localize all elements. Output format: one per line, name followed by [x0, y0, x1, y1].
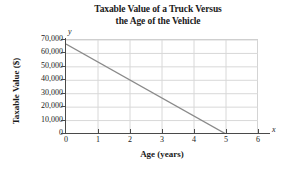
- y-axis-tick-label: 20,000: [21, 102, 63, 110]
- y-axis-tick-mark: [61, 52, 65, 53]
- x-axis-tick-label: 2: [120, 136, 140, 144]
- y-axis-tick-label: 70,000: [21, 35, 63, 43]
- x-axis-tick-mark: [226, 129, 227, 133]
- x-axis-tick-mark: [98, 129, 99, 133]
- chart-figure: Taxable Value of a Truck Versus the Age …: [0, 0, 290, 172]
- y-axis-letter: y: [68, 27, 72, 36]
- x-axis-tick-label: 4: [184, 136, 204, 144]
- chart-title: Taxable Value of a Truck Versus the Age …: [58, 4, 258, 27]
- x-axis-line: [65, 133, 270, 134]
- x-axis-tick-mark: [258, 129, 259, 133]
- chart-title-line-2: the Age of the Vehicle: [58, 16, 258, 28]
- y-axis-tick-mark: [61, 133, 65, 134]
- x-axis-tick-label: 6: [248, 136, 268, 144]
- plot-canvas: [66, 40, 258, 134]
- x-axis-letter: x: [272, 125, 276, 134]
- x-axis-tick-label: 3: [152, 136, 172, 144]
- x-axis-tick-label: 1: [88, 136, 108, 144]
- x-axis-tick-mark: [130, 129, 131, 133]
- y-axis-tick-mark: [61, 66, 65, 67]
- chart-title-line-1: Taxable Value of a Truck Versus: [58, 4, 258, 16]
- plot-area: [66, 39, 258, 133]
- y-axis-tick-mark: [61, 39, 65, 40]
- x-axis-tick-mark: [194, 129, 195, 133]
- y-axis-tick-mark: [61, 106, 65, 107]
- y-axis-tick-mark: [61, 120, 65, 121]
- x-axis-tick-label: 0: [56, 136, 76, 144]
- y-axis-tick-label: 50,000: [21, 62, 63, 70]
- y-axis-tick-label: 40,000: [21, 75, 63, 83]
- y-axis-tick-label: 10,000: [21, 116, 63, 124]
- vertical-gridlines: [98, 40, 258, 134]
- y-axis-tick-label: 30,000: [21, 89, 63, 97]
- x-axis-title: Age (years): [66, 149, 258, 159]
- y-axis-tick-mark: [61, 93, 65, 94]
- y-axis-title: Taxable Value ($): [11, 41, 21, 141]
- y-axis-line: [65, 38, 66, 134]
- y-axis-tick-mark: [61, 79, 65, 80]
- x-axis-tick-mark: [162, 129, 163, 133]
- y-axis-tick-label: 60,000: [21, 48, 63, 56]
- y-axis-tick-labels: 010,00020,00030,00040,00050,00060,00070,…: [18, 0, 63, 172]
- x-axis-tick-label: 5: [216, 136, 236, 144]
